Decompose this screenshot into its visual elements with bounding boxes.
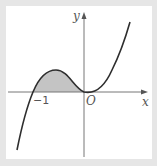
y-axis-label: y [73,10,80,22]
tick-label-minus-one: −1 [33,95,49,107]
cubic-graph [0,0,157,166]
x-axis-arrow-icon [141,90,148,95]
shaded-area [33,70,84,92]
y-axis-arrow-icon [82,12,87,19]
origin-label: O [86,95,96,107]
x-axis-label: x [142,96,149,108]
